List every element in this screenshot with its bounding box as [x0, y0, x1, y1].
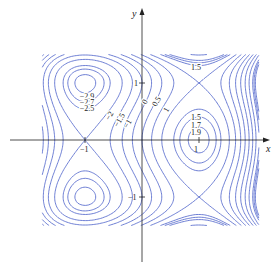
contour-label: 1 — [162, 106, 172, 114]
x-axis-arrow-icon — [263, 138, 270, 143]
contour-label: 0.5 — [150, 95, 163, 108]
contour-label: 0 — [140, 98, 150, 106]
x-tick-label: −1 — [80, 145, 89, 154]
x-tick-label: 1 — [194, 145, 198, 154]
contour-map: x y −111−1 −2.9−2.7−2.5−2−1.5−100.511.51… — [0, 0, 277, 274]
y-axis-label: y — [131, 8, 137, 19]
y-tick-label: 1 — [134, 79, 138, 88]
contour-label: 1.5 — [191, 63, 201, 72]
contour-label: 1.9 — [191, 128, 201, 137]
y-tick-label: −1 — [128, 193, 137, 202]
tick-labels: −111−1 — [80, 79, 199, 202]
contour-plot: x y −111−1 −2.9−2.7−2.5−2−1.5−100.511.51… — [0, 0, 277, 274]
x-axis-label: x — [265, 143, 271, 154]
y-axis-arrow-icon — [140, 8, 145, 15]
contour-label: −2.5 — [80, 104, 95, 113]
axes: x y — [10, 8, 271, 262]
contour-labels: −2.9−2.7−2.5−2−1.5−100.511.51.51.71.9 — [80, 63, 201, 137]
